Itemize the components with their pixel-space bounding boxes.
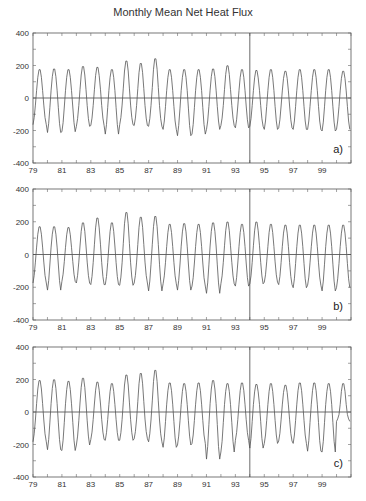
x-tick-label: 99 xyxy=(318,480,327,489)
net-heat-flux-series xyxy=(33,59,350,136)
x-tick-label: 93 xyxy=(231,166,240,175)
x-tick-label: 87 xyxy=(144,166,153,175)
x-tick-label: 97 xyxy=(289,166,298,175)
x-tick-label: 99 xyxy=(318,323,327,332)
x-tick-label: 79 xyxy=(29,480,38,489)
x-tick-label: 79 xyxy=(29,323,38,332)
x-tick-label: 89 xyxy=(173,166,182,175)
panel-label: b) xyxy=(333,300,343,312)
y-tick-label: -400 xyxy=(13,316,30,325)
chart-panel-3: -400-20002004007981838587899193959799c) xyxy=(13,343,351,489)
y-tick-label: 0 xyxy=(25,251,30,260)
x-tick-label: 95 xyxy=(260,480,269,489)
chart-panel-2: -400-20002004007981838587899193959799b) xyxy=(13,185,351,332)
panel-label: a) xyxy=(333,143,343,155)
x-tick-label: 81 xyxy=(57,166,66,175)
y-tick-label: 200 xyxy=(16,376,30,385)
y-tick-label: -200 xyxy=(13,283,30,292)
x-tick-label: 89 xyxy=(173,323,182,332)
x-tick-label: 97 xyxy=(289,323,298,332)
y-tick-label: -200 xyxy=(13,127,30,136)
y-tick-label: 200 xyxy=(16,62,30,71)
x-tick-label: 87 xyxy=(144,323,153,332)
x-tick-label: 93 xyxy=(231,323,240,332)
x-tick-label: 79 xyxy=(29,166,38,175)
x-tick-label: 91 xyxy=(202,166,211,175)
x-tick-label: 91 xyxy=(202,323,211,332)
x-tick-label: 95 xyxy=(260,323,269,332)
y-tick-label: 400 xyxy=(16,185,30,194)
x-tick-label: 97 xyxy=(289,480,298,489)
net-heat-flux-series xyxy=(33,370,350,459)
y-tick-label: 200 xyxy=(16,218,30,227)
panel-label: c) xyxy=(334,457,343,469)
x-tick-label: 93 xyxy=(231,480,240,489)
x-tick-label: 99 xyxy=(318,166,327,175)
x-tick-label: 91 xyxy=(202,480,211,489)
x-tick-label: 85 xyxy=(115,166,124,175)
x-tick-label: 81 xyxy=(57,323,66,332)
y-tick-label: 400 xyxy=(16,343,30,352)
x-tick-label: 89 xyxy=(173,480,182,489)
x-tick-label: 85 xyxy=(115,480,124,489)
x-tick-label: 95 xyxy=(260,166,269,175)
x-tick-label: 83 xyxy=(86,166,95,175)
y-tick-label: -400 xyxy=(13,159,30,168)
y-tick-label: 400 xyxy=(16,29,30,38)
x-tick-label: 85 xyxy=(115,323,124,332)
chart-panel-1: -400-20002004007981838587899193959799a) xyxy=(13,29,351,175)
y-tick-label: -200 xyxy=(13,441,30,450)
x-tick-label: 83 xyxy=(86,323,95,332)
y-tick-label: 0 xyxy=(25,408,30,417)
x-tick-label: 87 xyxy=(144,480,153,489)
x-tick-label: 83 xyxy=(86,480,95,489)
net-heat-flux-series xyxy=(33,213,350,294)
y-tick-label: -400 xyxy=(13,473,30,482)
chart-canvas: -400-20002004007981838587899193959799a)-… xyxy=(0,0,366,501)
y-tick-label: 0 xyxy=(25,94,30,103)
x-tick-label: 81 xyxy=(57,480,66,489)
